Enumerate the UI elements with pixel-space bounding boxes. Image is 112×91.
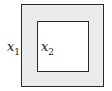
- label-x1-sub: 1: [14, 47, 20, 57]
- label-x2-sub: 2: [48, 47, 54, 57]
- label-x2: x2: [41, 40, 54, 57]
- label-x1: x1: [7, 40, 20, 57]
